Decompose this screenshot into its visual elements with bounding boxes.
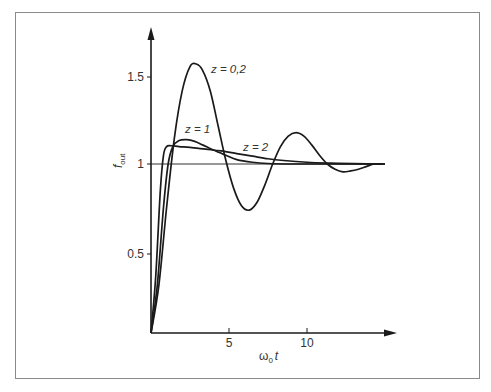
y-tick-label: 1.5 xyxy=(127,70,144,84)
label-z-1: z = 1 xyxy=(184,123,210,135)
x-axis-arrow-icon xyxy=(384,330,397,337)
chart: 0.511.5 510 z = 0,2 z = 1 z = 2 fout ω0t xyxy=(0,0,491,392)
y-ticks: 0.511.5 xyxy=(127,70,151,261)
curves xyxy=(151,63,385,333)
x-ticks: 510 xyxy=(226,328,314,350)
y-axis-label-sub: out xyxy=(118,153,127,165)
curve-z-2 xyxy=(151,146,385,333)
x-axis-label-var: t xyxy=(275,349,279,363)
label-z-2: z = 2 xyxy=(242,141,269,153)
x-tick-label: 5 xyxy=(226,336,233,350)
x-axis-label-main: ω xyxy=(259,349,268,363)
y-tick-label: 1 xyxy=(137,157,144,171)
svg-text:fout: fout xyxy=(111,153,127,168)
curve-z-0-2 xyxy=(151,63,382,333)
x-axis-label-sub: 0 xyxy=(268,356,273,365)
y-axis-arrow-icon xyxy=(148,27,155,40)
y-tick-label: 0.5 xyxy=(127,247,144,261)
x-tick-label: 10 xyxy=(300,336,314,350)
y-axis-label: fout xyxy=(111,153,127,168)
curve-z-1 xyxy=(151,140,385,333)
label-z-0-2: z = 0,2 xyxy=(210,63,246,75)
x-axis-label: ω0t xyxy=(259,349,279,365)
